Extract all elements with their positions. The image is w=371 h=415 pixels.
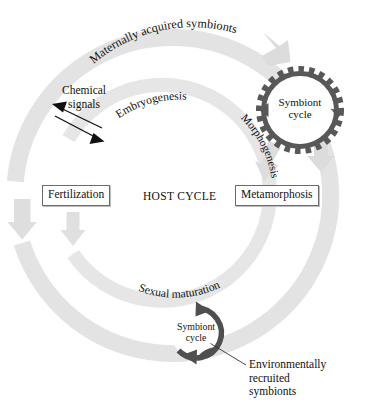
stage-label-metamorphosis: Metamorphosis (241, 188, 313, 200)
env-symbionts-line2: recruited (249, 372, 326, 386)
chemical-signals-label: Chemical signals (62, 84, 106, 111)
env-symbionts-line1: Environmentally (249, 358, 326, 372)
lower-symbiont-cycle-line2: cycle (167, 333, 225, 344)
stage-box-metamorphosis[interactable]: Metamorphosis (235, 185, 319, 206)
chemical-signals-line1: Chemical (62, 84, 106, 98)
upper-symbiont-cycle-line1: Symbiont (268, 96, 332, 108)
diagram-graphics: Maternally acquired symbionts Embryogene… (0, 0, 371, 415)
diagram-canvas: Maternally acquired symbionts Embryogene… (0, 0, 371, 415)
env-symbionts-line3: symbionts (249, 385, 326, 399)
host-cycle-label: HOST CYCLE (143, 190, 216, 204)
lower-symbiont-cycle-label: Symbiont cycle (167, 322, 225, 344)
stage-box-fertilization[interactable]: Fertilization (42, 185, 110, 206)
stage-label-fertilization: Fertilization (48, 188, 104, 200)
upper-symbiont-cycle-label: Symbiont cycle (268, 96, 332, 121)
upper-symbiont-cycle-line2: cycle (268, 108, 332, 120)
environmentally-recruited-symbionts-label: Environmentally recruited symbionts (249, 358, 326, 399)
chemical-signals-line2: signals (62, 98, 106, 112)
